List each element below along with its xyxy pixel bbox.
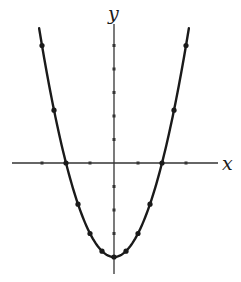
y-tick (113, 68, 116, 71)
y-tick (113, 115, 116, 118)
data-point (135, 231, 140, 236)
data-point (147, 202, 152, 207)
data-point (99, 249, 104, 254)
data-point (63, 160, 68, 165)
y-axis-label: y (107, 2, 119, 24)
data-point (51, 108, 56, 113)
x-tick (137, 162, 140, 165)
data-point (111, 254, 116, 259)
data-point (171, 108, 176, 113)
y-tick (113, 232, 116, 235)
data-point (123, 249, 128, 254)
y-tick (113, 91, 116, 94)
data-point (39, 43, 44, 48)
y-tick (113, 44, 116, 47)
x-tick (89, 162, 92, 165)
axes (12, 24, 218, 274)
y-tick (113, 209, 116, 212)
parabola-chart: x y (0, 0, 241, 282)
x-tick (41, 162, 44, 165)
y-tick (113, 185, 116, 188)
x-tick (185, 162, 188, 165)
data-point (159, 160, 164, 165)
data-point (75, 202, 80, 207)
x-axis-label: x (222, 152, 233, 174)
y-tick (113, 138, 116, 141)
data-point (87, 231, 92, 236)
data-point (183, 43, 188, 48)
